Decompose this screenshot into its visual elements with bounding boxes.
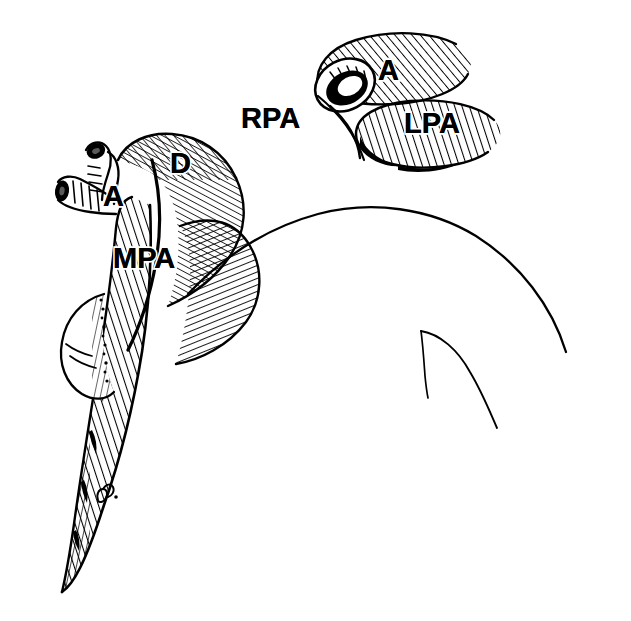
anatomical-illustration-svg: MPA MPA D D A A RPA RPA A A LPA LPA xyxy=(0,0,631,621)
label-d-fill: D xyxy=(170,147,191,179)
label-lpa-fill: LPA xyxy=(404,107,460,139)
label-a-inset-fill: A xyxy=(378,54,399,86)
label-a-main-fill: A xyxy=(103,180,124,212)
label-rpa-fill: RPA xyxy=(241,102,300,134)
label-mpa-fill: MPA xyxy=(113,242,175,274)
illustration-canvas: MPA MPA D D A A RPA RPA A A LPA LPA xyxy=(0,0,631,621)
